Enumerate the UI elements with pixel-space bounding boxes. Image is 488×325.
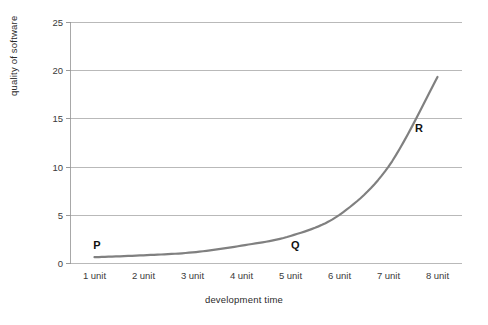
y-tick-label: 10: [52, 161, 63, 172]
plot-area: 0510152025 1 unit2 unit3 unit4 unit5 uni…: [70, 22, 462, 263]
x-tick-label: 8 unit: [426, 270, 449, 281]
y-tick-label: 25: [52, 17, 63, 28]
x-tick-label: 1 unit: [83, 270, 106, 281]
point-annotation-r: R: [415, 122, 423, 134]
x-tick-label: 3 unit: [181, 270, 204, 281]
x-tick-label: 6 unit: [328, 270, 351, 281]
point-annotation-p: P: [93, 239, 100, 251]
y-axis-tick: [66, 263, 71, 264]
line-chart: quality of software development time 051…: [0, 0, 488, 325]
y-tick-label: 0: [58, 258, 63, 269]
y-tick-label: 5: [58, 209, 63, 220]
point-annotation-q: Q: [291, 239, 300, 251]
series-line: [70, 22, 462, 263]
gridline: [70, 263, 462, 264]
x-tick-label: 5 unit: [279, 270, 302, 281]
y-axis-title: quality of software: [8, 0, 26, 96]
x-tick-label: 4 unit: [230, 270, 253, 281]
y-tick-label: 20: [52, 65, 63, 76]
x-tick-label: 2 unit: [132, 270, 155, 281]
x-tick-label: 7 unit: [377, 270, 400, 281]
x-axis-title: development time: [0, 294, 488, 305]
y-tick-label: 15: [52, 113, 63, 124]
